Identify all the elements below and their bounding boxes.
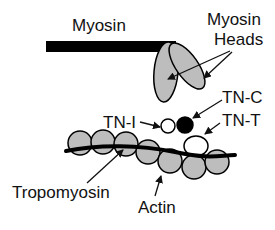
actin-monomer bbox=[136, 140, 160, 164]
arrow-tn-t bbox=[205, 123, 220, 134]
arrow-tn-i bbox=[140, 122, 160, 127]
troponin-c bbox=[177, 117, 193, 133]
troponin-i bbox=[161, 119, 175, 133]
muscle-filament-diagram: Myosin Myosin Heads TN-C TN-I TN-T bbox=[0, 0, 275, 230]
actin-monomer bbox=[91, 130, 115, 154]
actin-monomer bbox=[205, 150, 229, 174]
diagram-canvas: Myosin Myosin Heads TN-C TN-I TN-T bbox=[0, 0, 275, 230]
label-myosin: Myosin bbox=[72, 16, 126, 35]
actin-monomer bbox=[114, 132, 138, 156]
actin-monomer bbox=[182, 155, 206, 179]
label-tn-i: TN-I bbox=[103, 113, 136, 132]
label-myosin-heads-line1: Myosin bbox=[207, 10, 261, 29]
label-tn-t: TN-T bbox=[222, 111, 261, 130]
label-myosin-heads-line2: Heads bbox=[214, 30, 263, 49]
label-actin: Actin bbox=[138, 198, 176, 217]
label-tropomyosin: Tropomyosin bbox=[12, 183, 110, 202]
arrow-tn-c bbox=[193, 100, 222, 118]
arrow-actin bbox=[155, 176, 161, 196]
myosin-filament bbox=[46, 41, 176, 52]
label-tn-c: TN-C bbox=[222, 88, 263, 107]
arrow-tropomyosin bbox=[87, 150, 123, 183]
